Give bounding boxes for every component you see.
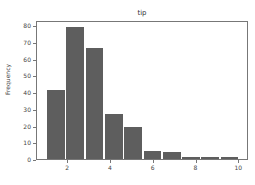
- y-tick-mark: [33, 160, 36, 161]
- x-tick-label: 4: [103, 164, 117, 171]
- histogram-bar: [182, 157, 200, 159]
- histogram-bar: [221, 157, 239, 159]
- y-tick-label: 0: [17, 156, 31, 163]
- y-tick-mark: [33, 110, 36, 111]
- x-tick-label: 8: [189, 164, 203, 171]
- plot-area: [36, 21, 248, 160]
- x-tick-mark: [196, 160, 197, 163]
- histogram-bar: [201, 157, 219, 159]
- y-tick-mark: [33, 93, 36, 94]
- y-tick-mark: [33, 60, 36, 61]
- y-tick-label: 10: [17, 139, 31, 146]
- x-tick-label: 2: [60, 164, 74, 171]
- y-tick-label: 80: [17, 22, 31, 29]
- y-tick-label: 70: [17, 39, 31, 46]
- y-tick-mark: [33, 76, 36, 77]
- y-tick-mark: [33, 43, 36, 44]
- histogram-bar: [86, 48, 104, 159]
- x-tick-mark: [110, 160, 111, 163]
- histogram-bar: [47, 90, 65, 159]
- histogram-bar: [105, 114, 123, 159]
- y-tick-mark: [33, 143, 36, 144]
- y-tick-mark: [33, 26, 36, 27]
- x-tick-mark: [67, 160, 68, 163]
- y-tick-mark: [33, 127, 36, 128]
- y-tick-label: 50: [17, 72, 31, 79]
- y-tick-label: 40: [17, 89, 31, 96]
- x-tick-label: 10: [231, 164, 245, 171]
- histogram-bar: [124, 127, 142, 159]
- chart-title: tip: [36, 9, 248, 17]
- y-tick-label: 20: [17, 123, 31, 130]
- y-tick-label: 30: [17, 106, 31, 113]
- histogram-bar: [163, 152, 181, 159]
- x-tick-mark: [238, 160, 239, 163]
- histogram-bar: [66, 27, 84, 159]
- x-tick-label: 6: [146, 164, 160, 171]
- y-axis-label: Frequency: [4, 64, 11, 95]
- x-tick-mark: [153, 160, 154, 163]
- histogram-bar: [144, 151, 162, 159]
- y-tick-label: 60: [17, 56, 31, 63]
